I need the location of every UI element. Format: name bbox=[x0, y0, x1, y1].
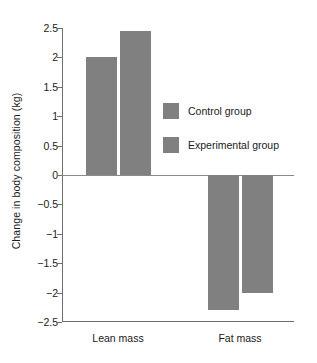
y-axis-tick-label: 0 bbox=[24, 170, 58, 181]
y-axis-tick-mark bbox=[57, 175, 62, 176]
y-axis-tick-mark bbox=[57, 146, 62, 147]
legend-color-swatch bbox=[163, 137, 179, 153]
y-axis-tick-mark bbox=[57, 28, 62, 29]
y-axis-tick-mark bbox=[57, 57, 62, 58]
y-axis-tick-label: 2.5 bbox=[24, 23, 58, 34]
y-axis-tick-label: 1 bbox=[24, 111, 58, 122]
y-axis-tick-label: −0.5 bbox=[24, 199, 58, 210]
x-axis-category-label: Fat mass bbox=[218, 332, 261, 344]
plot-area bbox=[62, 28, 294, 322]
bar bbox=[242, 175, 273, 293]
bar bbox=[208, 175, 239, 310]
y-axis-tick-mark bbox=[57, 116, 62, 117]
y-axis-tick-label: −2.5 bbox=[24, 317, 58, 328]
y-axis-tick-label: −1 bbox=[24, 229, 58, 240]
y-axis-tick-mark bbox=[57, 263, 62, 264]
y-axis-tick-label: −1.5 bbox=[24, 258, 58, 269]
y-axis-tick-mark bbox=[57, 322, 62, 323]
legend-label: Experimental group bbox=[188, 138, 279, 152]
bar bbox=[120, 31, 151, 175]
y-axis-tick-label: 2 bbox=[24, 52, 58, 63]
y-axis-tick-label: −2 bbox=[24, 287, 58, 298]
y-axis-tick-mark bbox=[57, 234, 62, 235]
legend-label: Control group bbox=[188, 104, 252, 118]
x-axis-line bbox=[62, 321, 294, 322]
bar bbox=[86, 57, 117, 175]
y-axis-tick-label: 1.5 bbox=[24, 82, 58, 93]
y-axis-tick-mark bbox=[57, 87, 62, 88]
y-axis-tick-mark bbox=[57, 204, 62, 205]
x-axis-category-label: Lean mass bbox=[92, 332, 143, 344]
y-axis-tick-mark bbox=[57, 293, 62, 294]
y-axis-tick-label: 0.5 bbox=[24, 140, 58, 151]
y-axis-tick-labels: 2.521.510.50−0.5−1−1.5−2−2.5 bbox=[22, 0, 58, 363]
legend-color-swatch bbox=[163, 103, 179, 119]
bar-chart: Change in body composition (kg) 2.521.51… bbox=[0, 0, 317, 363]
